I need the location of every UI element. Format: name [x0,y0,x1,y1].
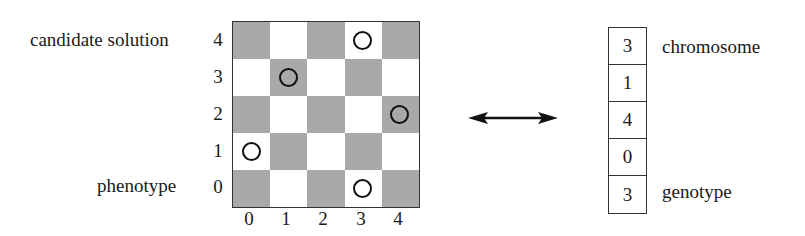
x-tick-2: 2 [313,208,333,230]
chromosome-array: 3 1 4 0 3 [608,27,647,214]
board-square [233,59,270,96]
gene-cell: 3 [609,28,646,65]
board-square [307,96,344,133]
board-square [382,22,419,59]
candidate-solution-label: candidate solution [30,29,169,51]
board-square [270,96,307,133]
chromosome-label: chromosome [662,36,760,58]
y-tick-3: 3 [211,66,225,88]
board-square [233,22,270,59]
board-square [307,59,344,96]
board-square [345,96,382,133]
board-square [307,133,344,170]
board-square [307,170,344,207]
x-tick-3: 3 [351,208,371,230]
board-square [270,22,307,59]
x-tick-0: 0 [239,208,259,230]
phenotype-label: phenotype [97,175,176,197]
x-tick-4: 4 [388,208,408,230]
board-square [382,170,419,207]
y-tick-1: 1 [211,140,225,162]
chess-board [232,21,420,208]
gene-cell: 4 [609,102,646,139]
board-square [270,59,307,96]
board-square [270,133,307,170]
board-square [345,170,382,207]
queen-circle-icon [242,142,261,161]
gene-cell: 0 [609,139,646,176]
gene-cell: 1 [609,65,646,102]
board-square [233,133,270,170]
y-tick-4: 4 [211,29,225,51]
board-square [382,96,419,133]
gene-cell: 3 [609,176,646,213]
board-square [382,59,419,96]
y-tick-2: 2 [211,103,225,125]
queen-circle-icon [353,179,372,198]
board-square [345,59,382,96]
board-square [345,22,382,59]
queen-circle-icon [279,68,298,87]
board-square [307,22,344,59]
board-square [345,133,382,170]
board-square [270,170,307,207]
queen-circle-icon [353,31,372,50]
y-tick-0: 0 [211,176,225,198]
board-square [233,170,270,207]
x-tick-1: 1 [276,208,296,230]
genotype-label: genotype [662,181,732,203]
queen-circle-icon [390,105,409,124]
bidirectional-arrow-icon [468,110,558,126]
board-square [233,96,270,133]
board-square [382,133,419,170]
